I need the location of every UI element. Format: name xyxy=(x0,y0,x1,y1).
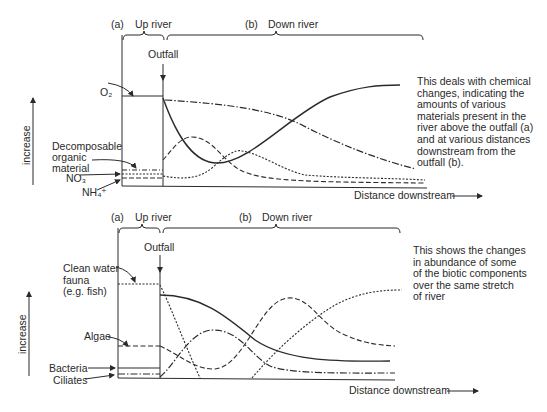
label-algae: Algae xyxy=(84,330,111,342)
label-decomposable: Decomposable organic material xyxy=(52,141,122,174)
top-x-axis-label: Distance downstream xyxy=(354,189,455,201)
top-x-axis xyxy=(122,186,427,188)
top-note: This deals with chemical changes, indica… xyxy=(417,76,533,169)
bottom-y-axis-label: increase xyxy=(16,314,28,354)
bottom-curve-ciliates xyxy=(160,330,395,377)
label-o2: O₂ xyxy=(100,86,112,98)
bottom-x-axis xyxy=(118,378,395,380)
bottom-chart xyxy=(29,224,478,391)
bottom-curve-algae xyxy=(160,298,395,369)
label-bacteria: Bacteria xyxy=(49,362,88,374)
top-region-a-marker: (a) xyxy=(111,18,124,30)
top-y-axis-label: increase xyxy=(20,125,32,165)
label-nh4: NH₄⁺ xyxy=(82,186,107,198)
bottom-region-a-marker: (a) xyxy=(111,211,124,223)
bottom-x-axis-label: Distance downstream xyxy=(349,384,450,396)
bottom-curve-bacteria xyxy=(160,295,390,361)
bottom-region-a-label: Up river xyxy=(135,211,172,223)
top-region-b-label: Down river xyxy=(268,18,318,30)
top-curve-no3 xyxy=(163,151,425,180)
top-region-a-label: Up river xyxy=(135,18,172,30)
bottom-outfall-label: Outfall xyxy=(144,241,174,253)
bottom-note: This shows the changes in abundance of s… xyxy=(413,245,527,303)
top-curve-o2 xyxy=(163,85,400,163)
top-brace-a xyxy=(123,31,164,40)
label-fauna: Clean water fauna (e.g. fish) xyxy=(63,263,119,298)
label-no3: NO₃ xyxy=(66,172,86,184)
bottom-brace-b xyxy=(163,224,400,233)
bottom-region-b-label: Down river xyxy=(262,211,312,223)
diagram-canvas xyxy=(0,0,547,412)
top-region-b-marker: (b) xyxy=(245,18,258,30)
top-outfall-label: Outfall xyxy=(148,48,178,60)
label-ciliates: Ciliates xyxy=(53,374,87,386)
bottom-region-b-marker: (b) xyxy=(239,211,252,223)
bottom-brace-a xyxy=(119,224,160,233)
top-brace-b xyxy=(167,31,423,40)
